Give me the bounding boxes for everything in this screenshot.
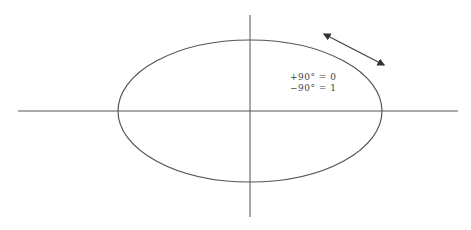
label-plus-90: +90° = 0 — [290, 72, 336, 82]
label-minus-90: −90° = 1 — [290, 83, 336, 93]
double-arrow-icon — [324, 34, 384, 65]
ellipse-diagram — [0, 0, 471, 230]
